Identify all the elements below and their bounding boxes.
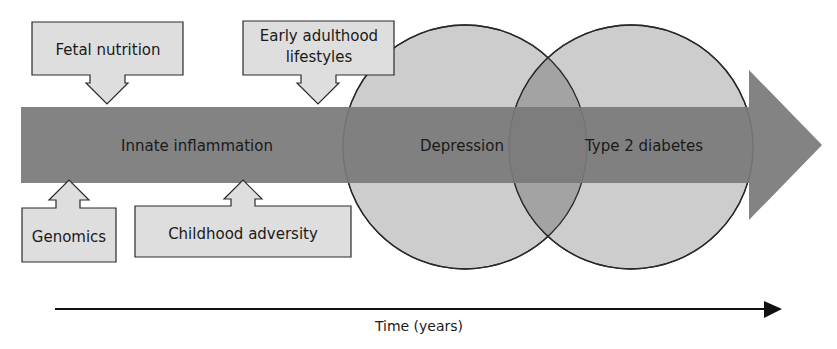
early-adulthood-label-line2: lifestyles (286, 48, 353, 66)
band-label: Innate inflammation (121, 137, 273, 155)
childhood-adversity-label: Childhood adversity (168, 225, 318, 243)
time-axis-arrowhead-icon (764, 301, 782, 318)
depression-label: Depression (420, 137, 504, 155)
early-adulthood-label-line1: Early adulthood (260, 27, 378, 45)
childhood-adversity-callout: Childhood adversity (135, 180, 351, 257)
time-axis-label: Time (years) (374, 318, 463, 334)
fetal-nutrition-label: Fetal nutrition (55, 41, 160, 59)
type2-diabetes-label: Type 2 diabetes (584, 137, 703, 155)
fetal-nutrition-callout: Fetal nutrition (32, 22, 183, 104)
genomics-label: Genomics (32, 228, 107, 246)
genomics-callout: Genomics (22, 180, 116, 262)
diagram-canvas: Innate inflammation Depression Type 2 di… (0, 0, 837, 349)
time-axis: Time (years) (55, 301, 782, 334)
